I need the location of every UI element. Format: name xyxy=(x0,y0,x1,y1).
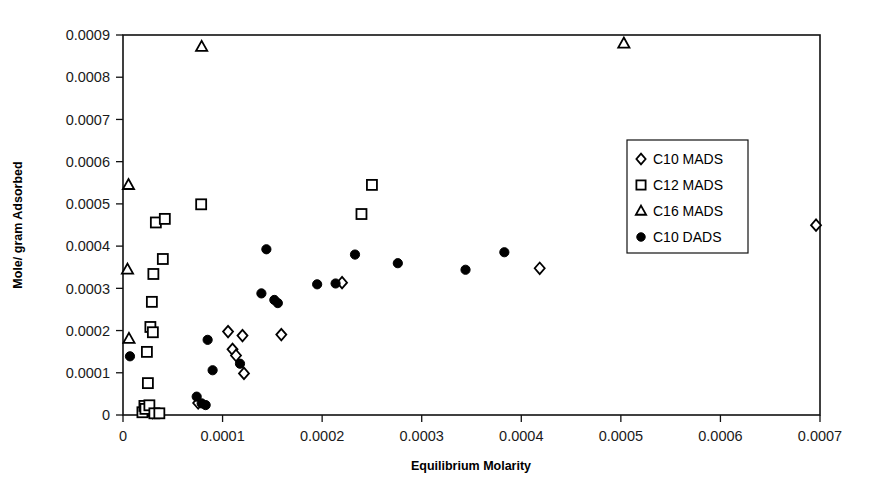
marker-circle-filled xyxy=(350,250,359,259)
chart-legend[interactable]: C10 MADSC12 MADSC16 MADSC10 DADS xyxy=(627,140,748,253)
marker-square-open xyxy=(148,269,158,279)
y-tick-label: 0.0007 xyxy=(66,112,110,128)
marker-square-open xyxy=(196,199,206,209)
y-tick-label: 0.0003 xyxy=(66,281,110,297)
marker-square-open xyxy=(148,327,158,337)
y-tick-label: 0.0001 xyxy=(66,365,110,381)
marker-square-open xyxy=(142,347,152,357)
x-tick-label: 0.0001 xyxy=(200,428,244,444)
marker-circle-filled xyxy=(125,352,134,361)
marker-circle-filled xyxy=(500,248,509,257)
y-tick-label: 0.0002 xyxy=(66,323,110,339)
marker-square-open xyxy=(154,408,164,418)
marker-circle-filled xyxy=(262,245,271,254)
legend-label: C16 MADS xyxy=(653,203,723,219)
marker-square-open xyxy=(636,180,645,189)
marker-circle-filled xyxy=(637,233,645,241)
marker-square-open xyxy=(160,214,170,224)
marker-square-open xyxy=(367,180,377,190)
marker-circle-filled xyxy=(201,400,210,409)
marker-square-open xyxy=(147,297,157,307)
y-tick-label: 0 xyxy=(102,407,110,423)
x-tick-label: 0.0003 xyxy=(400,428,444,444)
legend-label: C10 DADS xyxy=(653,229,721,245)
legend-label: C10 MADS xyxy=(653,151,723,167)
x-tick-label: 0.0002 xyxy=(300,428,344,444)
marker-circle-filled xyxy=(208,366,217,375)
marker-circle-filled xyxy=(331,279,340,288)
x-tick-label: 0.0004 xyxy=(499,428,543,444)
marker-circle-filled xyxy=(257,289,266,298)
scatter-chart: 00.00010.00020.00030.00040.00050.00060.0… xyxy=(0,0,875,491)
x-tick-label: 0.0006 xyxy=(698,428,742,444)
marker-circle-filled xyxy=(313,280,322,289)
marker-circle-filled xyxy=(393,259,402,268)
x-tick-label: 0.0005 xyxy=(599,428,643,444)
chart-canvas: 00.00010.00020.00030.00040.00050.00060.0… xyxy=(0,0,875,491)
legend-label: C12 MADS xyxy=(653,177,723,193)
marker-circle-filled xyxy=(273,299,282,308)
marker-circle-filled xyxy=(235,359,244,368)
marker-circle-filled xyxy=(461,265,470,274)
x-axis-title: Equilibrium Molarity xyxy=(411,459,531,473)
y-axis-title: Mole/ gram Adsorbed xyxy=(11,161,25,288)
y-tick-label: 0.0009 xyxy=(66,27,110,43)
x-tick-label: 0 xyxy=(119,428,127,444)
x-tick-label: 0.0007 xyxy=(798,428,842,444)
y-tick-label: 0.0004 xyxy=(66,238,110,254)
y-tick-label: 0.0006 xyxy=(66,154,110,170)
marker-square-open xyxy=(356,209,366,219)
marker-circle-filled xyxy=(203,335,212,344)
marker-square-open xyxy=(143,378,153,388)
y-tick-label: 0.0008 xyxy=(66,69,110,85)
marker-square-open xyxy=(158,254,168,264)
y-tick-label: 0.0005 xyxy=(66,196,110,212)
